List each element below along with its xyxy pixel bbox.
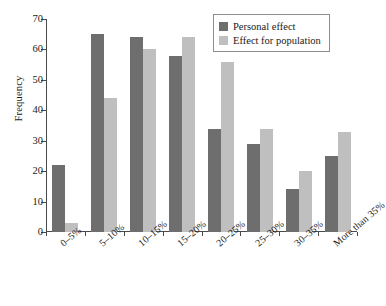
bar bbox=[247, 144, 260, 232]
legend-swatch-icon bbox=[219, 36, 228, 45]
bar-group bbox=[202, 62, 241, 232]
x-tick-mark bbox=[163, 232, 164, 236]
bar bbox=[260, 129, 273, 232]
x-tick-mark bbox=[85, 232, 86, 236]
y-tick-label: 10 bbox=[33, 195, 44, 208]
bar-group bbox=[46, 165, 85, 232]
legend-item-personal-effect: Personal effect bbox=[219, 19, 321, 33]
bar-group bbox=[85, 34, 124, 232]
y-tick-label: 40 bbox=[33, 103, 44, 116]
bar bbox=[221, 62, 234, 232]
bar bbox=[130, 37, 143, 232]
y-tick-label: 0 bbox=[38, 225, 43, 238]
bar bbox=[91, 34, 104, 232]
bar-group bbox=[318, 132, 357, 232]
bar bbox=[325, 156, 338, 232]
chart-legend: Personal effect Effect for population bbox=[213, 14, 330, 52]
x-tick-mark bbox=[46, 232, 47, 236]
bar bbox=[182, 37, 195, 232]
x-tick-mark bbox=[357, 232, 358, 236]
x-tick-mark bbox=[124, 232, 125, 236]
bar-group bbox=[240, 129, 279, 232]
bar-group bbox=[163, 37, 202, 232]
y-tick-label: 70 bbox=[33, 12, 44, 25]
x-tick-mark bbox=[240, 232, 241, 236]
legend-label: Effect for population bbox=[233, 34, 321, 47]
bar bbox=[169, 56, 182, 232]
legend-label: Personal effect bbox=[233, 20, 296, 33]
bar bbox=[338, 132, 351, 232]
legend-item-effect-for-population: Effect for population bbox=[219, 33, 321, 47]
y-tick-label: 60 bbox=[33, 42, 44, 55]
x-tick-mark bbox=[318, 232, 319, 236]
bar bbox=[208, 129, 221, 232]
bar bbox=[299, 171, 312, 232]
x-tick-mark bbox=[202, 232, 203, 236]
legend-swatch-icon bbox=[219, 22, 228, 31]
bar bbox=[286, 189, 299, 232]
y-tick-label: 20 bbox=[33, 164, 44, 177]
bar bbox=[52, 165, 65, 232]
bar bbox=[143, 49, 156, 232]
bar bbox=[104, 98, 117, 232]
y-tick-label: 30 bbox=[33, 134, 44, 147]
bar-group bbox=[124, 37, 163, 232]
x-tick-mark bbox=[279, 232, 280, 236]
y-axis-title: Frequency bbox=[13, 44, 24, 154]
y-tick-label: 50 bbox=[33, 73, 44, 86]
